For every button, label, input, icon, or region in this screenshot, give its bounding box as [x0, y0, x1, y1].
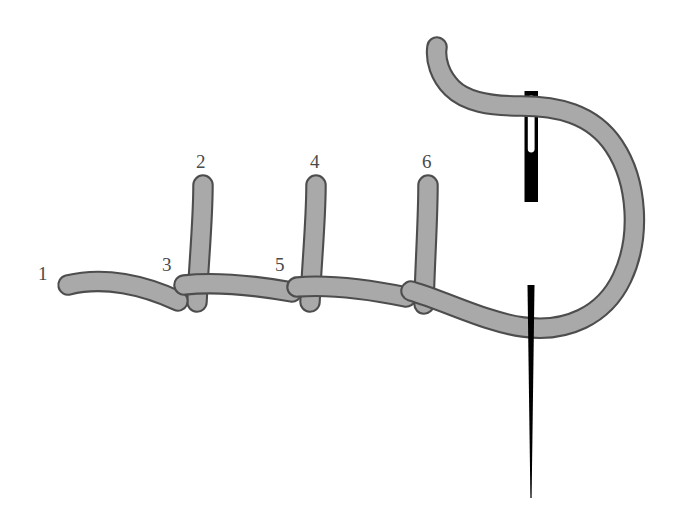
step-label-1: 1	[38, 264, 48, 283]
thread-segment-3-5	[184, 284, 292, 292]
step-label-3: 3	[162, 255, 172, 274]
stitch-illustration	[0, 0, 699, 512]
thread-tail-left	[68, 281, 178, 301]
step-label-6: 6	[422, 152, 432, 171]
thread-group	[68, 47, 634, 328]
step-label-2: 2	[196, 152, 206, 171]
thread-working-loop	[411, 47, 634, 328]
needle-tip-group	[528, 285, 535, 498]
stitch-diagram: 1 2 3 4 5 6	[0, 0, 699, 512]
needle-tip	[528, 285, 535, 498]
step-label-5: 5	[275, 255, 285, 274]
step-label-4: 4	[310, 152, 320, 171]
thread-segment-5-6	[297, 286, 406, 297]
